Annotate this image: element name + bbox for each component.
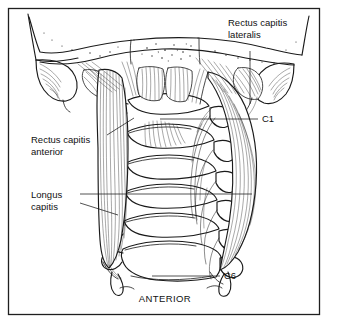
label-longus-capitis-line1: Longus bbox=[31, 189, 62, 200]
occipital-bone-fill bbox=[30, 22, 306, 62]
anatomy-illustration: Rectus capitis lateralis Rectus capitis … bbox=[0, 0, 338, 324]
vertebra-c5-body bbox=[124, 213, 219, 237]
mastoid-right-hatching bbox=[269, 68, 290, 100]
label-rectus-capitis-anterior-line1: Rectus capitis bbox=[31, 134, 90, 145]
mastoid-left-tip bbox=[63, 100, 70, 112]
label-rectus-capitis-lateralis-line2: lateralis bbox=[228, 29, 261, 40]
label-rectus-capitis-anterior: Rectus capitis anterior bbox=[31, 134, 90, 157]
label-longus-capitis-line2: capitis bbox=[31, 201, 58, 212]
longus-capitis-left-belly bbox=[97, 69, 128, 268]
rectus-capitis-anterior-slip-right bbox=[166, 67, 193, 102]
anatomy-figure: Rectus capitis lateralis Rectus capitis … bbox=[0, 0, 338, 324]
label-c1: C1 bbox=[262, 113, 274, 124]
vertebra-c4-body bbox=[125, 184, 217, 208]
c6-detail-right bbox=[207, 286, 222, 288]
longus-capitis-right-superior-tendon bbox=[200, 72, 208, 104]
label-rectus-capitis-anterior-line2: anterior bbox=[31, 146, 63, 157]
mastoid-left-hatching bbox=[40, 64, 61, 100]
label-rectus-capitis-lateralis-line1: Rectus capitis bbox=[228, 17, 287, 28]
label-c6: C6 bbox=[224, 270, 236, 281]
vertebra-c3-body bbox=[126, 155, 216, 179]
caption-anterior: ANTERIOR bbox=[139, 293, 191, 304]
c6-detail-left bbox=[120, 287, 134, 289]
label-longus-capitis: Longus capitis bbox=[31, 189, 62, 212]
longus-capitis-left-muscle bbox=[97, 69, 128, 279]
